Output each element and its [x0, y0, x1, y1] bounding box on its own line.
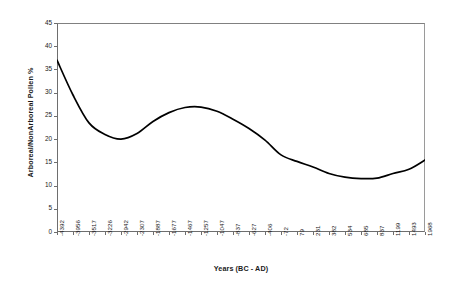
x-tick-mark	[409, 232, 410, 235]
x-tick-mark	[393, 232, 394, 235]
x-tick-label: -837	[235, 196, 241, 236]
x-tick-label: 1199	[395, 196, 401, 236]
x-tick-mark	[217, 232, 218, 235]
y-tick-mark	[54, 116, 57, 117]
pollen-percentage-line-chart: Arboreal/NonArboreal Pollen % Years (BC …	[0, 0, 450, 288]
x-tick-mark	[89, 232, 90, 235]
x-tick-mark	[169, 232, 170, 235]
y-tick-label: 40	[30, 43, 52, 49]
y-tick-mark	[54, 209, 57, 210]
y-tick-label: 45	[30, 20, 52, 26]
y-tick-label: 30	[30, 89, 52, 95]
y-tick-mark	[54, 93, 57, 94]
x-tick-mark	[249, 232, 250, 235]
x-tick-label: -1467	[187, 196, 193, 236]
x-tick-label: -1257	[203, 196, 209, 236]
x-tick-label: 1968	[427, 196, 433, 236]
x-tick-label: -3226	[107, 196, 113, 236]
x-tick-label: 837	[379, 196, 385, 236]
x-tick-label: -2307	[139, 196, 145, 236]
y-tick-mark	[54, 162, 57, 163]
x-tick-mark	[361, 232, 362, 235]
x-tick-mark	[313, 232, 314, 235]
x-tick-mark	[121, 232, 122, 235]
x-tick-mark	[281, 232, 282, 235]
y-tick-label: 15	[30, 159, 52, 165]
x-tick-label: -1677	[171, 196, 177, 236]
x-tick-label: -3956	[75, 196, 81, 236]
y-tick-label: 35	[30, 66, 52, 72]
y-tick-label: 25	[30, 112, 52, 118]
x-tick-mark	[345, 232, 346, 235]
x-tick-label: -3517	[91, 196, 97, 236]
x-tick-label: -406	[267, 196, 273, 236]
x-tick-label: 79	[299, 196, 305, 236]
x-tick-mark	[57, 232, 58, 235]
x-tick-mark	[185, 232, 186, 235]
x-tick-mark	[201, 232, 202, 235]
x-tick-mark	[137, 232, 138, 235]
y-tick-label: 0	[30, 229, 52, 235]
y-tick-label: 5	[30, 205, 52, 211]
x-tick-mark	[265, 232, 266, 235]
x-tick-mark	[153, 232, 154, 235]
x-tick-mark	[329, 232, 330, 235]
x-tick-mark	[425, 232, 426, 235]
y-tick-mark	[54, 186, 57, 187]
x-tick-mark	[73, 232, 74, 235]
y-tick-mark	[54, 139, 57, 140]
y-tick-mark	[54, 23, 57, 24]
x-tick-label: 1493	[411, 196, 417, 236]
y-tick-label: 20	[30, 136, 52, 142]
x-tick-label: 382	[331, 196, 337, 236]
x-tick-label: 534	[347, 196, 353, 236]
x-tick-mark	[377, 232, 378, 235]
x-tick-mark	[105, 232, 106, 235]
pollen-series-line	[57, 60, 425, 179]
x-axis-title: Years (BC - AD)	[57, 264, 425, 273]
x-tick-label: -1887	[155, 196, 161, 236]
x-tick-label: -2942	[123, 196, 129, 236]
x-tick-label: 685	[363, 196, 369, 236]
x-tick-label: -4392	[59, 196, 65, 236]
x-tick-mark	[233, 232, 234, 235]
x-tick-label: -72	[283, 196, 289, 236]
y-tick-label: 10	[30, 182, 52, 188]
x-tick-label: 231	[315, 196, 321, 236]
y-tick-mark	[54, 69, 57, 70]
y-tick-mark	[54, 46, 57, 47]
x-tick-label: -1047	[219, 196, 225, 236]
x-tick-mark	[297, 232, 298, 235]
x-tick-label: -627	[251, 196, 257, 236]
